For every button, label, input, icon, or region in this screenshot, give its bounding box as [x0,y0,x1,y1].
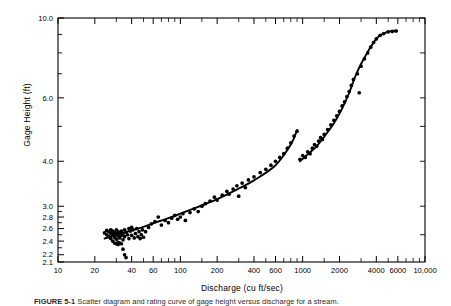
data-point [258,171,262,175]
x-tick-label: 4000 [368,266,385,275]
data-point [196,210,200,214]
data-point [269,163,273,167]
data-point [124,256,128,260]
data-point [237,194,241,198]
data-point [184,219,188,223]
y-axis-title: Gage Height (ft) [22,60,32,170]
data-point [120,242,124,246]
data-point [178,215,182,219]
x-axis-title: Discharge (cu ft/sec) [58,283,426,293]
data-point [235,184,239,188]
y-axis-ticks [58,18,425,262]
data-point [167,221,171,225]
x-tick-label: 600 [269,266,282,275]
rating-curve-lower [105,130,298,238]
data-point [264,167,268,171]
rating-curve-upper [300,31,397,162]
figure-caption-label: FIGURE 5-1 [34,297,75,306]
data-point [127,237,131,241]
data-point [115,237,119,241]
data-point [121,238,125,242]
x-tick-label: 10,000 [413,266,436,275]
x-tick-label: 1000 [294,266,311,275]
x-axis-ticks [58,18,425,262]
plot-frame [58,18,425,262]
data-point [213,195,217,199]
x-tick-label: 20 [91,266,99,275]
data-point [357,91,361,95]
y-tick-label: 2.8 [42,213,53,222]
data-point [160,223,164,227]
y-tick-label: 2.4 [42,237,53,246]
y-tick-label: 2.6 [42,224,53,233]
y-tick-label: 4.0 [42,157,53,166]
x-tick-label: 100 [174,266,187,275]
x-tick-label: 60 [149,266,157,275]
x-tick-label: 6000 [389,266,406,275]
y-axis-tick-labels: 10.06.04.03.02.82.62.42.22.1 [38,14,53,267]
figure-caption-text: Scatter diagram and rating curve of gage… [77,297,338,306]
data-point [132,236,136,240]
data-point [144,230,148,234]
fitted-rating-curves [105,31,397,239]
x-tick-label: 10 [54,266,62,275]
x-tick-label: 400 [248,266,261,275]
y-tick-label: 6.0 [42,94,53,103]
data-point [126,233,130,237]
x-axis-tick-labels: 10204060100200400600100020004000600010,0… [54,266,437,275]
data-point [142,235,146,239]
data-point [252,175,256,179]
data-point [137,230,141,234]
data-point [240,181,244,185]
x-tick-label: 200 [211,266,224,275]
x-tick-label: 2000 [331,266,348,275]
y-tick-label: 2.1 [42,258,53,267]
data-point [121,247,125,251]
y-tick-label: 10.0 [38,14,53,23]
figure-container: 10.06.04.03.02.82.62.42.22.1 10204060100… [0,0,451,306]
x-tick-label: 40 [127,266,135,275]
rating-curve-plot: 10.06.04.03.02.82.62.42.22.1 10204060100… [0,0,451,306]
data-point [156,215,160,219]
data-point [247,178,251,182]
figure-caption: FIGURE 5-1 Scatter diagram and rating cu… [34,297,424,306]
data-point [138,237,142,241]
y-tick-label: 3.0 [42,202,53,211]
data-point [134,232,138,236]
